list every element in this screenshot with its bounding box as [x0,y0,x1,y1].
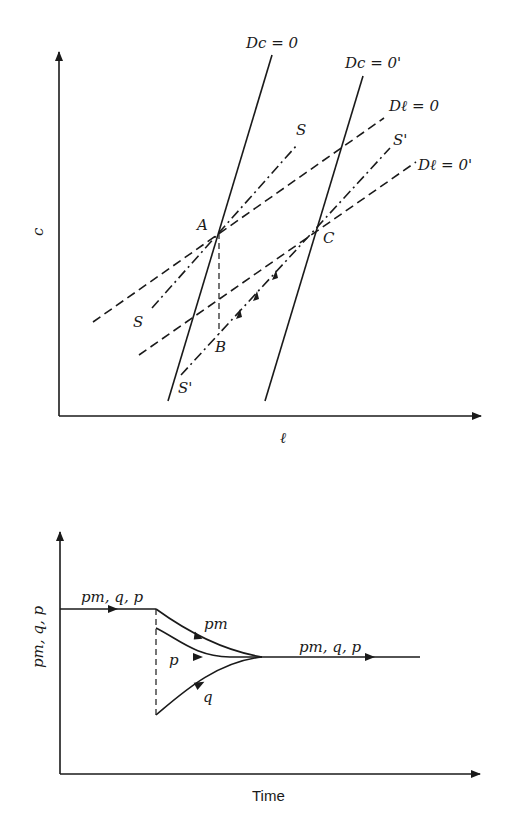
s-upper-label: S [296,121,306,139]
point-c-label: C [323,229,335,247]
point-a-label: A [195,216,208,234]
dc0-shift-label: Dc = 0' [344,54,401,72]
adjustment-path-arrows [236,270,278,319]
final-arrow-icon [365,653,375,661]
q-label: q [203,688,213,706]
dl0-label: Dℓ = 0 [388,97,439,115]
c-axis-label: c [29,227,47,236]
sprime-line [181,148,390,375]
point-b-label: B [214,338,226,356]
s-line [152,145,297,308]
dc0-label: Dc = 0 [245,34,299,52]
sprime-lower-label: S' [178,379,192,397]
l-axis-label: ℓ [280,429,286,447]
dl0-line [93,118,384,322]
diagram-canvas: c ℓ Dc = 0 Dc = 0' Dℓ = 0 Dℓ = 0' S S S'… [0,0,507,813]
s-lower-label: S [133,313,143,331]
initial-label: pm, q, p [81,588,144,606]
final-label: pm, q, p [299,638,362,656]
bottom-panel: pm, q, p Time pm, q, p pm p q pm, q, p [29,532,480,804]
top-panel: c ℓ Dc = 0 Dc = 0' Dℓ = 0 Dℓ = 0' S S S'… [29,34,481,447]
dl0-shift-line [139,162,416,355]
initial-arrow-icon [108,605,118,613]
time-axis-label: Time [252,787,285,804]
pm-label: pm [204,615,228,633]
dc0-shift-line [265,76,363,401]
p-arrow-icon [193,653,203,661]
p-label: p [169,651,179,669]
value-axis-label: pm, q, p [29,606,47,669]
sprime-upper-label: S' [393,131,407,149]
dl0-shift-label: Dℓ = 0' [417,156,472,174]
